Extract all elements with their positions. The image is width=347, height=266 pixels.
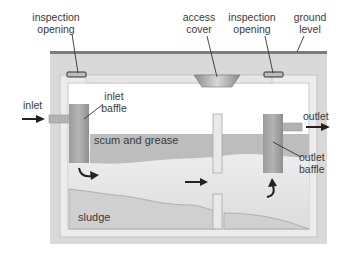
label-access-cover: access cover bbox=[177, 11, 221, 35]
tank-partition bbox=[213, 114, 222, 229]
label-inlet-baffle: inlet baffle bbox=[96, 90, 132, 114]
label-scum-and-grease: scum and grease bbox=[94, 134, 178, 146]
label-inspection-opening-left: inspection opening bbox=[26, 11, 86, 35]
label-sludge: sludge bbox=[78, 211, 110, 223]
label-ground-level: ground level bbox=[288, 11, 332, 35]
label-outlet-baffle: outlet baffle bbox=[299, 151, 325, 175]
inspection-opening-left-icon[interactable] bbox=[67, 72, 86, 77]
ground-level-line bbox=[50, 51, 327, 54]
septic-tank-diagram bbox=[0, 0, 347, 266]
inspection-opening-right-icon[interactable] bbox=[264, 72, 283, 77]
label-inspection-opening-right: inspection opening bbox=[222, 11, 282, 35]
label-inlet: inlet bbox=[23, 99, 42, 111]
label-outlet: outlet bbox=[303, 110, 329, 122]
